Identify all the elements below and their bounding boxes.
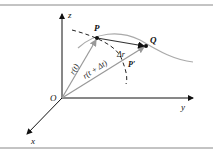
diagram-canvas: z y x O P Q P′ Δr r(t) r(t + Δt) xyxy=(0,0,213,155)
vector-derivative-diagram: z y x O P Q P′ Δr r(t) r(t + Δt) xyxy=(0,0,213,155)
delta-r-label: Δr xyxy=(116,50,126,59)
z-axis-label: z xyxy=(67,10,72,20)
r-t-label: r(t) xyxy=(68,62,81,76)
P-label: P xyxy=(94,23,100,33)
point-Q xyxy=(144,44,148,48)
y-axis-label: y xyxy=(180,102,185,112)
point-P xyxy=(95,36,99,40)
P-prime-label: P′ xyxy=(128,60,135,69)
Q-label: Q xyxy=(150,35,157,45)
x-axis xyxy=(27,98,62,134)
x-axis-label: x xyxy=(30,136,35,146)
origin-label: O xyxy=(50,93,57,103)
